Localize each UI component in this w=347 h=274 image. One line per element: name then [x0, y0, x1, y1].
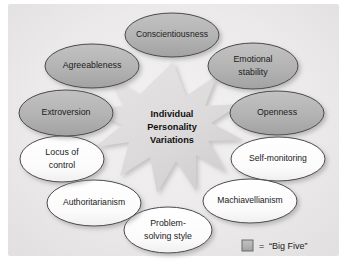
node-locus-of-control[interactable]: Locus of control	[20, 136, 104, 182]
center-title-line2: Personality	[147, 122, 197, 132]
legend-equals-sign: =	[259, 241, 264, 251]
center-title-line1: Individual	[151, 109, 194, 119]
center-title-line3: Variations	[150, 135, 194, 145]
node-label-machiavellianism: Machiavellianism	[217, 195, 282, 205]
node-label-self-monitoring: Self-monitoring	[249, 153, 307, 163]
node-label-emotional-stability-line1: Emotional	[233, 54, 272, 64]
diagram-canvas: Conscientiousness Emotional stability Op…	[0, 0, 347, 274]
node-label-emotional-stability-line2: stability	[238, 67, 268, 77]
node-label-agreeableness: Agreeableness	[63, 60, 122, 70]
node-label-authoritarianism: Authoritarianism	[63, 197, 125, 207]
node-label-problem-solving-style-line1: Problem-	[150, 218, 186, 228]
legend-swatch-big-five	[242, 240, 253, 251]
node-agreeableness[interactable]: Agreeableness	[45, 44, 139, 88]
node-label-openness: Openness	[257, 107, 298, 117]
node-problem-solving-style[interactable]: Problem- solving style	[124, 207, 212, 253]
node-conscientiousness[interactable]: Conscientiousness	[125, 13, 219, 57]
node-self-monitoring[interactable]: Self-monitoring	[231, 137, 325, 181]
node-ellipse-emotional-stability[interactable]	[208, 43, 298, 89]
node-label-problem-solving-style-line2: solving style	[144, 231, 192, 241]
node-ellipse-locus-of-control[interactable]	[20, 136, 104, 182]
node-label-conscientiousness: Conscientiousness	[136, 29, 208, 39]
node-emotional-stability[interactable]: Emotional stability	[208, 43, 298, 89]
personality-variations-diagram: Conscientiousness Emotional stability Op…	[0, 0, 347, 274]
node-extroversion[interactable]: Extroversion	[19, 90, 113, 136]
legend: = “Big Five”	[242, 240, 308, 251]
node-label-locus-of-control-line1: Locus of	[45, 147, 79, 157]
center-title: Individual Personality Variations	[147, 109, 197, 145]
node-openness[interactable]: Openness	[230, 91, 324, 135]
node-machiavellianism[interactable]: Machiavellianism	[203, 179, 297, 223]
legend-label-big-five: “Big Five”	[269, 241, 308, 251]
node-authoritarianism[interactable]: Authoritarianism	[47, 180, 141, 226]
node-label-locus-of-control-line2: control	[49, 160, 75, 170]
node-ellipse-problem-solving-style[interactable]	[124, 207, 212, 253]
node-label-extroversion: Extroversion	[42, 107, 91, 117]
